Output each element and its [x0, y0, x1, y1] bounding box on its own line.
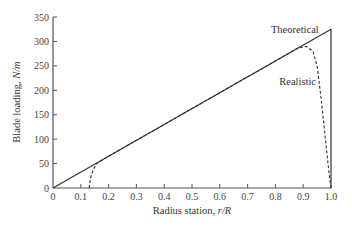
x-tick-label: 0.8	[269, 191, 282, 202]
y-tick-label: 350	[34, 12, 49, 23]
blade-loading-chart: 050100150200250300350 00.10.20.30.40.50.…	[0, 0, 352, 226]
x-tick-label: 0.1	[75, 191, 88, 202]
x-tick-label: 0.5	[186, 191, 199, 202]
y-tick-label: 0	[44, 183, 49, 194]
x-tick-label: 1.0	[325, 191, 338, 202]
series-group	[53, 29, 331, 188]
x-axis-label: Radius station, r/R	[153, 205, 232, 216]
x-tick-label: 0	[51, 191, 56, 202]
x-tick-label: 0.2	[102, 191, 115, 202]
x-tick-label: 0.4	[158, 191, 171, 202]
annotation-realistic: Realistic	[279, 76, 316, 87]
x-tick-label: 0.3	[130, 191, 143, 202]
x-tick-label: 0.9	[297, 191, 310, 202]
y-tick-label: 250	[34, 60, 49, 71]
y-tick-label: 150	[34, 109, 49, 120]
annotation-theoretical: Theoretical	[271, 24, 319, 35]
y-tick-label: 300	[34, 36, 49, 47]
annotations: TheoreticalRealistic	[271, 24, 319, 88]
x-tick-label: 0.7	[241, 191, 254, 202]
x-axis: 00.10.20.30.40.50.60.70.80.91.0	[51, 184, 338, 202]
y-axis-label: Blade loading, N/m	[11, 61, 22, 143]
series-realistic	[89, 46, 331, 188]
x-tick-label: 0.6	[214, 191, 227, 202]
y-tick-label: 200	[34, 85, 49, 96]
y-tick-label: 50	[39, 158, 49, 169]
y-tick-label: 100	[34, 134, 49, 145]
y-axis: 050100150200250300350	[34, 12, 57, 194]
